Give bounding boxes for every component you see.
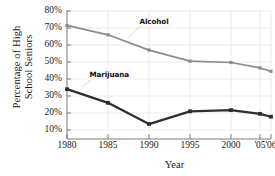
ytick-label-10%: 10% — [28, 125, 62, 135]
data-point-alcohol-1995 — [188, 60, 191, 63]
xtick-label-1980: 1980 — [58, 141, 77, 151]
plot-area: Alcohol Marijuana — [65, 11, 271, 139]
x-axis-title: Year — [0, 159, 275, 170]
ytick-label-50%: 50% — [28, 57, 62, 67]
series-label-marijuana: Marijuana — [87, 69, 132, 80]
series-line-marijuana — [65, 87, 273, 126]
x-axis-tick-labels: 19801985199019952000'05'06 — [0, 141, 275, 155]
y-axis-title-line-1: Percentage of High — [11, 7, 23, 127]
polyline-marijuana — [67, 89, 271, 124]
chart-screenshot: Percentage of High School Seniors 80%70%… — [0, 0, 275, 176]
data-point-alcohol-2000 — [229, 61, 232, 64]
data-point-alcohol-1990 — [147, 49, 150, 52]
ytick-label-30%: 30% — [28, 91, 62, 101]
ytick-label-70%: 70% — [28, 23, 62, 33]
xtick-label-06: '06 — [265, 141, 275, 151]
xtick-label-1985: 1985 — [99, 141, 118, 151]
data-point-marijuana-'05 — [258, 112, 262, 116]
leader-line — [127, 27, 139, 39]
leader-line — [82, 80, 91, 87]
data-point-marijuana-'06 — [269, 115, 273, 119]
series-label-alcohol: Alcohol — [137, 16, 171, 27]
xtick-label-2000: 2000 — [222, 141, 241, 151]
data-point-alcohol-1985 — [106, 33, 109, 36]
ytick-label-60%: 60% — [28, 40, 62, 50]
xtick-label-05: '05 — [254, 141, 265, 151]
data-point-marijuana-1980 — [65, 87, 69, 91]
x-axis-title-text: Year — [165, 159, 184, 170]
series-line-alcohol — [65, 24, 272, 73]
data-point-alcohol-'05 — [258, 66, 261, 69]
polyline-alcohol — [67, 25, 271, 71]
ytick-label-80%: 80% — [28, 6, 62, 16]
xtick-label-1990: 1990 — [140, 141, 159, 151]
data-point-marijuana-1995 — [188, 109, 192, 113]
data-point-alcohol-1980 — [65, 24, 68, 27]
ytick-label-40%: 40% — [28, 74, 62, 84]
data-point-alcohol-'06 — [269, 70, 272, 73]
ytick-label-20%: 20% — [28, 108, 62, 118]
data-point-marijuana-1985 — [106, 101, 110, 105]
data-point-marijuana-2000 — [229, 108, 233, 112]
data-point-marijuana-1990 — [147, 122, 151, 126]
xtick-label-1995: 1995 — [181, 141, 200, 151]
